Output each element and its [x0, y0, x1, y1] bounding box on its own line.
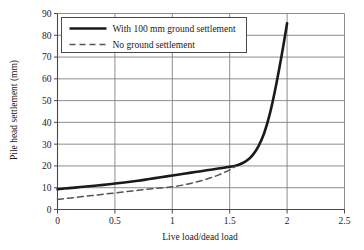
- legend-label-1: With 100 mm ground settlement: [113, 24, 236, 34]
- y-tick-label: 70: [42, 52, 52, 62]
- y-tick-label: 80: [42, 31, 52, 41]
- x-tick-label: 0.5: [109, 216, 121, 226]
- legend-label-2: No ground settlement: [113, 40, 196, 50]
- chart-legend: With 100 mm ground settlementNo ground s…: [62, 18, 247, 53]
- x-tick-label: 1.5: [224, 216, 236, 226]
- x-tick-label: 1: [170, 216, 175, 226]
- x-tick-label: 2: [285, 216, 290, 226]
- x-tick-labels: 00.511.522.5: [55, 216, 351, 226]
- y-tick-labels: 0102030405060708090: [42, 9, 52, 215]
- line-chart: 0102030405060708090 00.511.522.5 With 10…: [0, 0, 364, 250]
- series-line-2: [58, 166, 236, 199]
- y-tick-label: 50: [42, 96, 52, 106]
- chart-figure: 0102030405060708090 00.511.522.5 With 10…: [0, 0, 364, 250]
- y-tick-label: 90: [42, 9, 52, 19]
- y-axis-title: Pile head settlement (mm): [9, 60, 20, 160]
- y-tick-label: 30: [42, 140, 52, 150]
- y-tick-label: 20: [42, 161, 52, 171]
- x-axis-title: Live load/dead load: [162, 232, 238, 242]
- y-tick-label: 60: [42, 74, 52, 84]
- y-tick-label: 40: [42, 118, 52, 128]
- x-tick-label: 0: [55, 216, 60, 226]
- y-tick-label: 0: [47, 205, 52, 215]
- x-tick-label: 2.5: [339, 216, 351, 226]
- y-tick-label: 10: [42, 183, 52, 193]
